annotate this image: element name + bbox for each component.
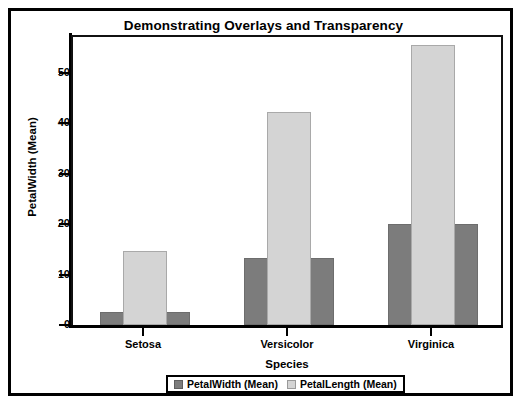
chart-title: Demonstrating Overlays and Transparency (11, 18, 516, 33)
legend-label: PetalWidth (Mean) (187, 378, 278, 390)
bar-versicolor-series-2 (267, 112, 310, 325)
x-tick-mark (142, 328, 144, 336)
y-tick-label: 0 (28, 318, 70, 330)
x-tick-label-versicolor: Versicolor (217, 338, 357, 350)
x-tick-mark (286, 328, 288, 336)
legend-entry-1: PetalWidth (Mean) (174, 378, 278, 390)
bar-setosa-series-2 (123, 251, 166, 325)
x-axis-title: Species (71, 358, 503, 370)
y-tick-label: 10 (28, 268, 70, 280)
light-gray-swatch-icon (287, 380, 296, 389)
y-tick-label: 30 (28, 167, 70, 179)
chart-legend: PetalWidth (Mean)PetalLength (Mean) (166, 375, 405, 393)
clipped-top-text (0, 0, 521, 2)
bar-virginica-series-2 (411, 45, 454, 325)
plot-area (71, 35, 503, 325)
legend-entry-2: PetalLength (Mean) (287, 378, 397, 390)
y-tick-label: 50 (28, 66, 70, 78)
x-tick-mark (430, 328, 432, 336)
y-tick-label: 40 (28, 116, 70, 128)
y-tick-label: 20 (28, 217, 70, 229)
dark-gray-swatch-icon (174, 380, 183, 389)
legend-label: PetalLength (Mean) (300, 378, 397, 390)
x-tick-label-virginica: Virginica (361, 338, 501, 350)
x-tick-label-setosa: Setosa (73, 338, 213, 350)
chart-frame: Demonstrating Overlays and Transparency … (8, 8, 513, 396)
